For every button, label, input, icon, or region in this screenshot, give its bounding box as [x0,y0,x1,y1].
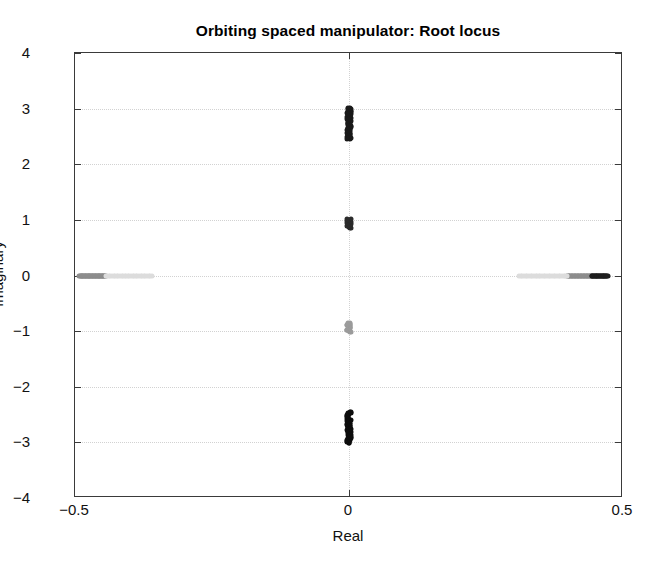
y-tick-mark [75,53,81,54]
x-tick-label: 0.5 [612,501,633,518]
y-tick-label: 1 [0,210,30,227]
locus-point [345,216,350,221]
y-tick-mark [615,331,621,332]
x-axis-title: Real [333,527,364,544]
y-tick-mark [75,109,81,110]
locus-point [349,409,354,414]
y-tick-mark [615,387,621,388]
y-tick-label: 4 [0,44,30,61]
y-tick-mark [615,164,621,165]
y-axis-title: Imaginary [0,241,6,307]
gridline-horizontal [75,387,621,388]
x-tick-label: −0.5 [59,501,89,518]
page-title: Orbiting spaced manipulator: Root locus [74,22,622,40]
y-tick-mark [615,276,621,277]
y-tick-label: −4 [0,489,30,506]
x-tick-mark [349,490,350,496]
x-tick-label: 0 [344,501,352,518]
locus-point [565,273,570,278]
y-tick-mark [75,331,81,332]
y-tick-mark [615,109,621,110]
gridline-horizontal [75,164,621,165]
y-tick-label: −1 [0,322,30,339]
y-tick-mark [615,220,621,221]
y-tick-label: −3 [0,433,30,450]
locus-point [605,273,610,278]
root-locus-figure: Orbiting spaced manipulator: Root locus … [0,0,662,570]
plot-area [74,52,622,497]
y-tick-label: 2 [0,155,30,172]
y-tick-label: 3 [0,99,30,116]
y-tick-mark [615,442,621,443]
y-tick-mark [75,387,81,388]
y-tick-mark [75,220,81,221]
locus-point [348,320,353,325]
y-tick-mark [75,164,81,165]
locus-point [347,105,352,110]
y-tick-mark [75,442,81,443]
y-tick-label: −2 [0,377,30,394]
y-tick-mark [615,53,621,54]
locus-point [149,273,154,278]
x-tick-mark [349,53,350,59]
